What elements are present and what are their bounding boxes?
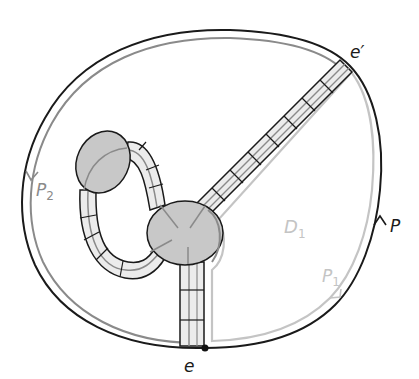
label-D1: D1 [284,216,306,241]
vertical-band [180,262,204,346]
central-disk [147,201,223,265]
label-P1: P1 [322,266,340,289]
diagonal-band [195,60,352,216]
label-e: e [184,356,194,376]
arrow-P2-icon [26,171,38,180]
label-P2: P2 [36,180,54,203]
label-e-prime: e′ [350,42,364,62]
small-disk [66,122,140,202]
point-e [202,345,209,352]
topology-diagram: e′ e P P2 P1 D1 [0,0,419,379]
label-P: P [390,216,401,236]
